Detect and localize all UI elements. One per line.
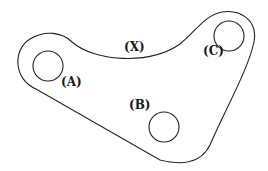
label-b: (B) [129,99,151,111]
label-c: (C) [203,45,224,57]
hole-a [33,51,63,81]
label-x: (X) [124,41,145,53]
plate-outline [18,12,255,163]
hole-b [149,112,179,142]
plate-diagram [0,0,268,171]
label-a: (A) [61,76,82,88]
